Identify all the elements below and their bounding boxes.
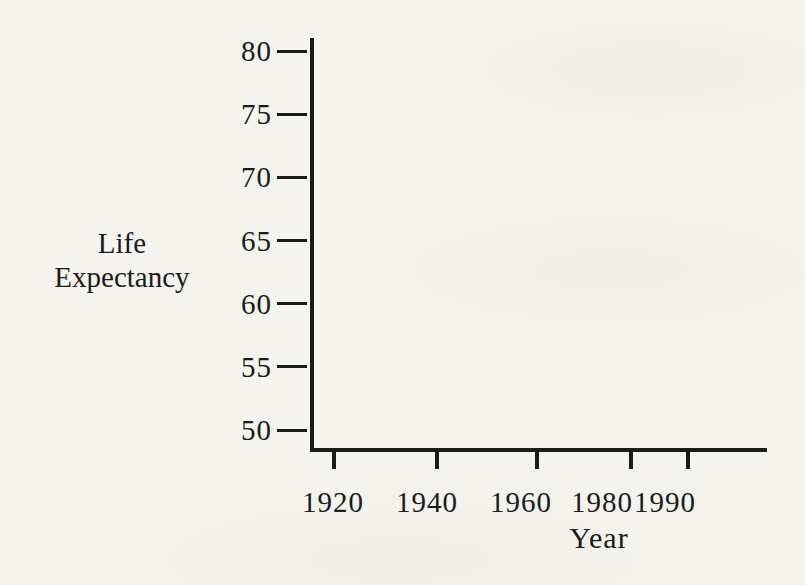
y-tick-label: 70 [182, 163, 272, 192]
y-tick-label: 60 [182, 290, 272, 319]
scanned-textbook-page: Life Expectancy 80757065605550 192019401… [0, 0, 805, 585]
y-tick-mark [277, 239, 307, 242]
x-tick-mark [629, 450, 633, 469]
y-tick-label: 50 [182, 416, 272, 445]
y-tick-mark [277, 302, 307, 305]
x-tick-mark [332, 450, 336, 469]
y-tick-mark [277, 50, 307, 53]
y-tick-label: 80 [182, 37, 272, 66]
y-tick-mark [277, 176, 307, 179]
y-tick-mark [277, 365, 307, 368]
y-tick-label: 65 [182, 227, 272, 256]
y-tick-mark [277, 429, 307, 432]
x-tick-label: 1990 [605, 488, 725, 517]
x-axis-title: Year [538, 523, 660, 553]
x-tick-mark [686, 450, 690, 469]
y-tick-label: 75 [182, 100, 272, 129]
x-tick-mark [435, 450, 439, 469]
y-axis-line [310, 38, 314, 452]
y-tick-mark [277, 113, 307, 116]
x-tick-mark [535, 450, 539, 469]
y-tick-label: 55 [182, 353, 272, 382]
